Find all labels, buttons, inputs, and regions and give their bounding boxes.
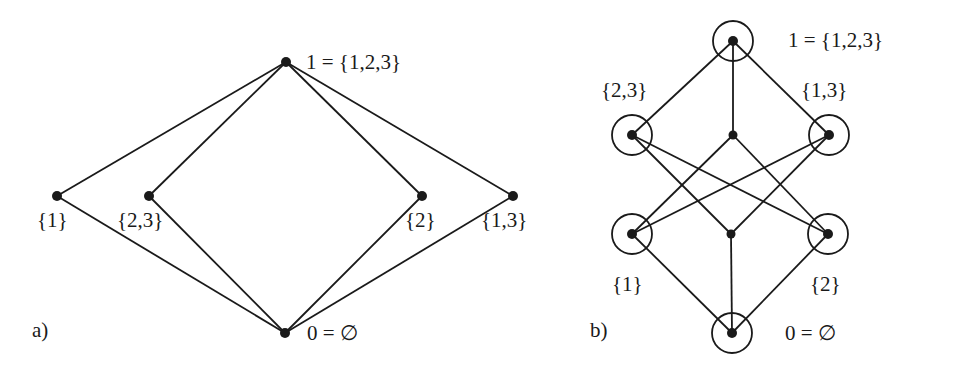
edge-mid_bottom-bottom [731,234,732,333]
node-s13 [824,130,834,140]
diagram-b-hasse-lattice [0,0,957,375]
node-label-s23: {2,3} [117,210,163,231]
node-label-bottom: 0 = ∅ [307,323,358,344]
node-label-s1: {1} [612,274,643,295]
node-label-s13: {1,3} [481,210,527,231]
edge-s1-bottom [632,234,732,333]
panel-label-b: b) [590,320,608,341]
node-label-s2: {2} [810,274,841,295]
node-label-top: 1 = {1,2,3} [788,30,883,51]
node-label-s2: {2} [405,210,436,231]
node-label-s13: {1,3} [801,80,847,101]
lattice-figure: 1 = {1,2,3}{1}{2,3}{2}{1,3}0 = ∅ 1 = {1,… [0,0,957,375]
panel-label-a: a) [32,320,48,341]
node-label-top: 1 = {1,2,3} [306,52,401,73]
node-top [728,36,738,46]
node-mid_bottom [727,230,736,239]
node-s1 [627,229,637,239]
node-s23 [627,130,637,140]
node-mid_top [729,131,738,140]
node-label-bottom: 0 = ∅ [785,323,836,344]
node-label-s23: {2,3} [601,80,647,101]
node-bottom [727,328,737,338]
node-s2 [823,229,833,239]
node-label-s1: {1} [37,210,68,231]
